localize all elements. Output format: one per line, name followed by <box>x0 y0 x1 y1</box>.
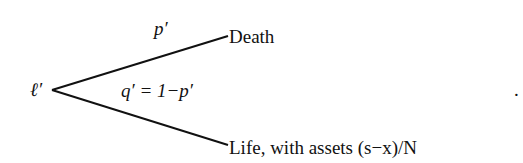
life-probability-label: q′ = 1−p′ <box>121 81 193 100</box>
life-outcome-label: Life, with assets (s−x)/N <box>229 138 417 157</box>
root-node-label: ℓ′ <box>30 80 42 99</box>
trailing-period: . <box>514 80 519 99</box>
death-outcome-label: Death <box>229 27 274 46</box>
death-probability-label: p′ <box>154 19 168 38</box>
